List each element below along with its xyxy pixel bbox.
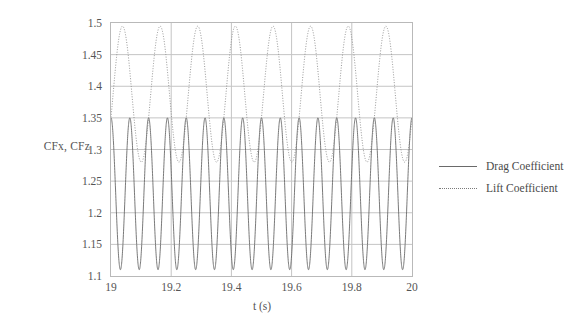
x-tick-label: 19.4 (211, 281, 251, 293)
data-series-layer (111, 26, 412, 270)
y-tick-label: 1.45 (66, 49, 102, 61)
legend-line-solid-icon (437, 161, 479, 171)
series-line-drag (111, 118, 412, 270)
y-tick-label: 1.35 (66, 112, 102, 124)
plot-area (110, 22, 413, 277)
legend: Drag Coefficient Lift Coefficient (437, 155, 579, 199)
legend-item-lift-coefficient: Lift Coefficient (437, 177, 579, 199)
series-line-lift (111, 26, 412, 162)
legend-label-lift: Lift Coefficient (479, 182, 558, 194)
y-tick-label: 1.5 (66, 17, 102, 29)
legend-line-dotted-icon (437, 183, 479, 193)
chart-figure: CFx, CFz 1.11.151.21.251.31.351.41.451.5… (0, 0, 584, 330)
legend-item-drag-coefficient: Drag Coefficient (437, 155, 579, 177)
x-tick-label: 20 (392, 281, 432, 293)
legend-label-drag: Drag Coefficient (479, 160, 563, 172)
x-tick-label: 19.8 (332, 281, 372, 293)
y-tick-label: 1.15 (66, 238, 102, 250)
gridlines (111, 23, 412, 276)
y-tick-label: 1.4 (66, 80, 102, 92)
x-tick-label: 19.2 (151, 281, 191, 293)
y-tick-label: 1.2 (66, 207, 102, 219)
y-tick-label: 1.3 (66, 144, 102, 156)
x-tick-label: 19.6 (272, 281, 312, 293)
y-tick-label: 1.25 (66, 175, 102, 187)
x-tick-label: 19 (91, 281, 131, 293)
plot-svg (111, 23, 412, 276)
x-axis-title: t (s) (253, 300, 271, 312)
